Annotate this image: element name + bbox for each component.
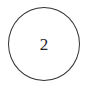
diagram-node-circle: 2	[8, 7, 80, 81]
node-label: 2	[40, 36, 49, 53]
